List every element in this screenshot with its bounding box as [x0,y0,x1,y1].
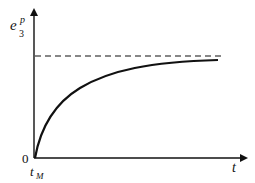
origin-label: 0 [22,151,29,166]
x-tick-label: t [30,164,34,179]
x-tick-label-sub: M [35,171,44,181]
y-axis-label: e [10,17,17,33]
x-axis-label: t [232,160,237,175]
strain-curve [35,60,218,158]
y-axis-label-sup: p [19,14,25,25]
y-axis-label-sub: 3 [19,28,24,39]
strain-curve-diagram: e p 3 0 t M t [0,0,255,183]
